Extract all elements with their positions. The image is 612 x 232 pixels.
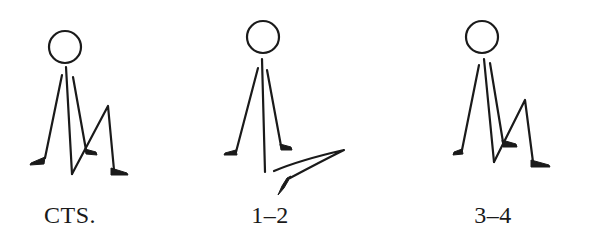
left-hand-icon xyxy=(453,149,463,155)
figure-cts xyxy=(30,31,128,175)
bent-leg-line xyxy=(72,106,114,174)
extended-leg-line xyxy=(274,150,344,178)
right-hand-icon xyxy=(85,149,97,155)
left-arm-line xyxy=(462,65,479,150)
figure-label-1-2: 1–2 xyxy=(210,202,330,229)
foot-icon xyxy=(531,160,550,167)
left-hand-icon xyxy=(30,157,45,165)
head-icon xyxy=(247,21,279,53)
foot-icon xyxy=(111,168,128,175)
head-icon xyxy=(49,31,81,63)
figures-svg xyxy=(0,0,612,232)
bent-leg-line xyxy=(494,100,533,162)
right-arm-line xyxy=(73,77,86,150)
right-hand-icon xyxy=(280,144,292,150)
left-hand-icon xyxy=(224,150,237,155)
figure-label-3-4: 3–4 xyxy=(433,202,553,229)
figure-3-4 xyxy=(453,21,550,167)
foot-icon xyxy=(278,176,291,195)
diagram-canvas: CTS. 1–2 3–4 xyxy=(0,0,612,232)
left-arm-line xyxy=(45,75,62,158)
figure-label-cts: CTS. xyxy=(10,202,130,229)
trunk-line xyxy=(262,59,265,172)
right-arm-line xyxy=(267,70,281,146)
head-icon xyxy=(466,21,498,53)
figure-1-2 xyxy=(224,21,344,195)
trunk-line xyxy=(66,67,72,174)
left-arm-line xyxy=(236,68,258,152)
